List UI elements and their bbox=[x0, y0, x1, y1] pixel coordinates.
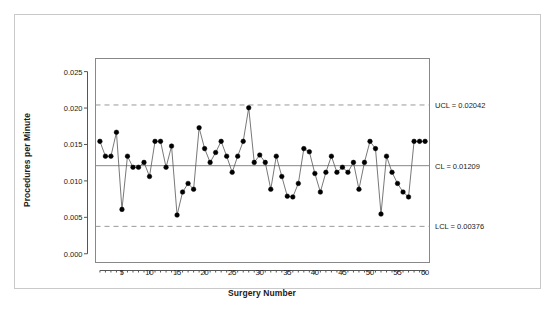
x-tick-label: 10 bbox=[145, 268, 153, 277]
data-point bbox=[252, 160, 257, 165]
x-tick-label: 15 bbox=[173, 268, 181, 277]
data-point bbox=[302, 146, 307, 151]
data-point bbox=[197, 125, 202, 130]
data-point bbox=[263, 160, 268, 165]
data-point bbox=[224, 154, 229, 159]
data-point bbox=[164, 165, 169, 170]
limit-label-lcl: LCL = 0.00376 bbox=[435, 222, 484, 231]
data-point bbox=[417, 139, 422, 144]
data-point bbox=[279, 174, 284, 179]
data-point bbox=[379, 212, 384, 217]
x-tick-label: 55 bbox=[393, 268, 401, 277]
data-point bbox=[340, 165, 345, 170]
y-tick-label: 0.025 bbox=[50, 67, 83, 76]
data-point bbox=[257, 153, 262, 158]
data-point bbox=[191, 187, 196, 192]
y-axis-title: Procedures per Minute bbox=[22, 113, 32, 207]
data-point bbox=[208, 160, 213, 165]
data-point bbox=[324, 170, 329, 175]
data-point bbox=[329, 154, 334, 159]
data-point bbox=[268, 187, 273, 192]
data-point bbox=[406, 195, 411, 200]
data-point bbox=[351, 160, 356, 165]
data-point bbox=[158, 139, 163, 144]
data-point bbox=[213, 150, 218, 155]
data-point bbox=[125, 154, 130, 159]
x-tick-label: 30 bbox=[256, 268, 264, 277]
data-point bbox=[202, 146, 207, 151]
control-chart-figure: Procedures per Minute Surgery Number 0.0… bbox=[0, 0, 560, 322]
data-point bbox=[368, 139, 373, 144]
data-point bbox=[147, 174, 152, 179]
data-point bbox=[335, 170, 340, 175]
data-point bbox=[401, 190, 406, 195]
data-point bbox=[318, 190, 323, 195]
data-point bbox=[241, 139, 246, 144]
data-point bbox=[384, 154, 389, 159]
data-point bbox=[153, 139, 158, 144]
data-point bbox=[246, 105, 251, 110]
y-tick-label: 0.020 bbox=[50, 104, 83, 113]
x-tick-label: 25 bbox=[228, 268, 236, 277]
data-point bbox=[357, 187, 362, 192]
y-tick-label: 0.015 bbox=[50, 140, 83, 149]
data-point bbox=[230, 170, 235, 175]
data-series-line bbox=[100, 108, 425, 215]
x-tick-label: 35 bbox=[283, 268, 291, 277]
data-point bbox=[313, 171, 318, 176]
data-point bbox=[346, 170, 351, 175]
y-tick-label: 0.005 bbox=[50, 213, 83, 222]
x-axis-title: Surgery Number bbox=[228, 288, 296, 298]
data-point bbox=[274, 154, 279, 159]
x-tick-label: 60 bbox=[421, 268, 429, 277]
data-point bbox=[235, 154, 240, 159]
data-point bbox=[395, 181, 400, 186]
data-point bbox=[136, 165, 141, 170]
x-tick-label: 20 bbox=[200, 268, 208, 277]
y-tick-label: 0.000 bbox=[50, 249, 83, 258]
y-tick-label: 0.010 bbox=[50, 176, 83, 185]
data-point bbox=[180, 190, 185, 195]
limit-label-ucl: UCL = 0.02042 bbox=[435, 100, 485, 109]
x-tick-label: 5 bbox=[120, 268, 124, 277]
data-point bbox=[114, 130, 119, 135]
data-point bbox=[219, 139, 224, 144]
x-tick-label: 40 bbox=[311, 268, 319, 277]
data-point bbox=[169, 144, 174, 149]
limit-label-cl: CL = 0.01209 bbox=[435, 161, 480, 170]
x-tick-label: 45 bbox=[338, 268, 346, 277]
plot-area: Procedures per Minute Surgery Number 0.0… bbox=[0, 0, 560, 322]
data-point bbox=[120, 207, 125, 212]
data-point bbox=[142, 160, 147, 165]
data-point bbox=[103, 154, 108, 159]
data-point bbox=[186, 181, 191, 186]
data-point bbox=[412, 139, 417, 144]
data-point bbox=[291, 195, 296, 200]
data-point bbox=[98, 139, 103, 144]
data-point bbox=[362, 160, 367, 165]
data-point bbox=[390, 170, 395, 175]
x-tick-label: 50 bbox=[366, 268, 374, 277]
data-point bbox=[285, 194, 290, 199]
data-point bbox=[423, 139, 428, 144]
data-point bbox=[373, 146, 378, 151]
data-point bbox=[296, 181, 301, 186]
data-point bbox=[175, 213, 180, 218]
data-point bbox=[131, 165, 136, 170]
data-point bbox=[109, 154, 114, 159]
data-point bbox=[307, 149, 312, 154]
